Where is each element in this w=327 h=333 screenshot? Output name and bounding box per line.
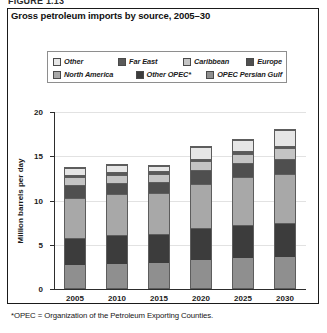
legend-swatch-other	[53, 58, 61, 66]
legend-label-far-east: Far East	[129, 57, 157, 66]
legend-row-1: Other Far East Caribbean Europe	[53, 55, 282, 68]
legend-item-other-opec[interactable]: Other OPEC*	[136, 68, 207, 81]
bar-segment	[65, 185, 85, 197]
x-tick-label: 2030	[265, 294, 305, 303]
legend-swatch-far-east	[118, 58, 126, 66]
legend-label-north-america: North America	[64, 70, 113, 79]
bar-segment	[275, 174, 295, 224]
legend-label-europe: Europe	[257, 57, 282, 66]
legend-label-opec-persian-gulf: OPEC Persian Gulf	[217, 70, 282, 79]
bar-segment	[275, 223, 295, 257]
bar-2030[interactable]	[274, 129, 296, 289]
legend-item-north-america[interactable]: North America	[53, 68, 136, 81]
legend-item-opec-persian-gulf[interactable]: OPEC Persian Gulf	[206, 68, 282, 81]
bar-segment	[65, 198, 85, 238]
bar-2005[interactable]	[64, 167, 86, 289]
bar-segment	[191, 260, 211, 288]
chart-title: Gross petroleum imports by source, 2005–…	[11, 10, 210, 21]
y-tick: 15	[50, 156, 54, 157]
bar-segment	[149, 182, 169, 194]
footnote: *OPEC = Organization of the Petroleum Ex…	[11, 311, 213, 320]
y-tick: 20	[50, 112, 54, 113]
bar-2015[interactable]	[148, 165, 170, 289]
bar-segment	[107, 235, 127, 264]
figure-panel: FIGURE 1.13 Gross petroleum imports by s…	[0, 0, 327, 333]
chart-legend: Other Far East Caribbean Europe North Am…	[47, 51, 287, 83]
y-tick-label: 20	[34, 108, 43, 117]
bar-2025[interactable]	[232, 139, 254, 289]
y-tick-label: 0	[39, 285, 43, 294]
y-tick: 0	[50, 289, 54, 290]
bar-segment	[233, 154, 253, 164]
bar-segment	[65, 265, 85, 288]
gridline	[55, 112, 306, 113]
legend-swatch-north-america	[53, 71, 61, 79]
y-tick: 10	[50, 201, 54, 202]
gridline	[55, 156, 306, 157]
y-tick: 5	[50, 245, 54, 246]
bar-segment	[275, 148, 295, 159]
legend-swatch-caribbean	[183, 58, 191, 66]
legend-label-other-opec: Other OPEC*	[147, 70, 192, 79]
legend-swatch-opec-persian-gulf	[206, 71, 214, 79]
bar-segment	[233, 177, 253, 225]
bar-segment	[65, 168, 85, 175]
gridline	[55, 201, 306, 202]
legend-swatch-europe	[246, 58, 254, 66]
legend-row-2: North America Other OPEC* OPEC Persian G…	[53, 68, 282, 81]
bar-2010[interactable]	[106, 164, 128, 289]
bar-segment	[191, 228, 211, 260]
bar-segment	[233, 258, 253, 288]
bar-segment	[107, 175, 127, 183]
bar-segment	[107, 183, 127, 195]
bar-segment	[191, 161, 211, 170]
x-tick-label: 2005	[55, 294, 95, 303]
x-tick-label: 2015	[139, 294, 179, 303]
x-tick-label: 2025	[223, 294, 263, 303]
y-tick-label: 10	[34, 196, 43, 205]
bar-segment	[191, 147, 211, 159]
bar-segment	[275, 159, 295, 174]
bar-2020[interactable]	[190, 146, 212, 289]
bar-segment	[275, 257, 295, 288]
bar-segment	[149, 234, 169, 263]
bar-segment	[191, 170, 211, 183]
bar-segment	[65, 238, 85, 265]
bar-segment	[275, 130, 295, 146]
bar-segment	[149, 263, 169, 288]
bar-segment	[107, 165, 127, 172]
bar-segment	[191, 184, 211, 228]
legend-item-other[interactable]: Other	[53, 55, 118, 68]
bar-segment	[149, 193, 169, 234]
bar-segment	[149, 174, 169, 182]
legend-item-far-east[interactable]: Far East	[118, 55, 183, 68]
x-axis-line	[54, 289, 306, 290]
y-tick-label: 15	[34, 152, 43, 161]
x-tick-label: 2010	[97, 294, 137, 303]
figure-caption: FIGURE 1.13	[8, 0, 64, 4]
bar-segment	[107, 264, 127, 288]
bar-segment	[233, 140, 253, 151]
legend-swatch-other-opec	[136, 71, 144, 79]
bar-segment	[233, 163, 253, 177]
legend-label-other: Other	[64, 57, 83, 66]
legend-label-caribbean: Caribbean	[194, 57, 229, 66]
y-tick-label: 5	[39, 240, 43, 249]
legend-item-caribbean[interactable]: Caribbean	[183, 55, 246, 68]
bar-segment	[107, 194, 127, 235]
bar-segment	[65, 177, 85, 185]
x-tick-label: 2020	[181, 294, 221, 303]
legend-item-europe[interactable]: Europe	[246, 55, 282, 68]
y-axis-title: Million barrels per day	[16, 112, 28, 290]
bar-segment	[233, 225, 253, 258]
plot-area: 05101520 200520102015202020252030	[54, 112, 306, 290]
gridline	[55, 245, 306, 246]
